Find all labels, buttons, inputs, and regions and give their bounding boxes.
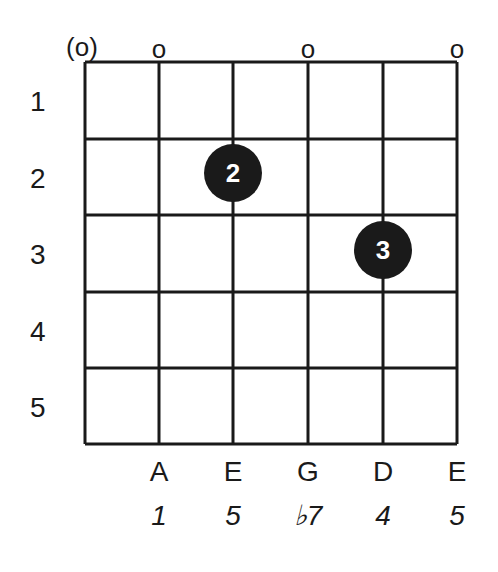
interval-string-5: 1 [139, 502, 179, 530]
finger-dot-3: 3 [354, 221, 412, 279]
interval-string-4: 5 [213, 502, 253, 530]
open-marker-string-5: o [134, 36, 184, 62]
note-name-string-1: E [437, 458, 477, 486]
open-marker-string-1: o [432, 36, 482, 62]
fret-number-4: 4 [30, 318, 50, 346]
finger-dot-2: 2 [204, 144, 262, 202]
fret-number-1: 1 [30, 88, 50, 116]
interval-string-1: 5 [437, 502, 477, 530]
interval-string-2: 4 [363, 502, 403, 530]
interval-string-3: ♭7 [288, 502, 328, 530]
fret-number-2: 2 [30, 165, 50, 193]
fretboard-grid [0, 0, 498, 572]
open-marker-string-6: (o) [57, 34, 107, 60]
note-name-string-3: G [288, 458, 328, 486]
fret-number-5: 5 [30, 394, 50, 422]
open-marker-string-3: o [283, 36, 333, 62]
note-name-string-4: E [213, 458, 253, 486]
note-name-string-2: D [363, 458, 403, 486]
note-name-string-5: A [139, 458, 179, 486]
fret-number-3: 3 [30, 241, 50, 269]
